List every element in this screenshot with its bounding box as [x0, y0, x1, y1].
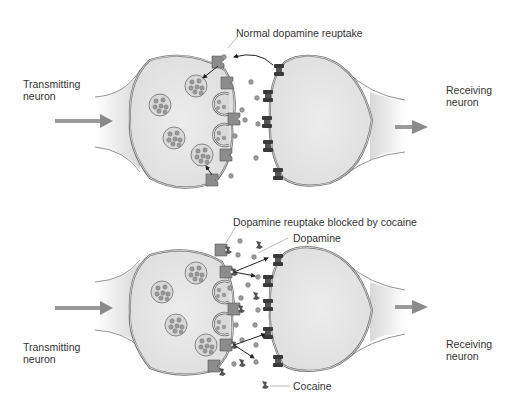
- receiving-terminal: [270, 247, 372, 371]
- vesicle: [191, 144, 213, 166]
- cocaine-label: Cocaine: [293, 380, 332, 392]
- cocaine-molecule: [253, 292, 260, 300]
- vesicle: [185, 262, 207, 284]
- vesicle: [151, 281, 173, 303]
- transmitting-terminal: [130, 250, 234, 374]
- vesicle: [163, 127, 185, 149]
- vesicle: [195, 334, 217, 356]
- blocked-transporter: [215, 244, 227, 256]
- output-arrow-icon: [412, 120, 428, 134]
- fusing-vesicle: [213, 281, 229, 303]
- blocked-reuptake-label: Dopamine reuptake blocked by cocaine: [233, 216, 417, 228]
- normal-reuptake-label: Normal dopamine reuptake: [236, 27, 363, 39]
- cocaine-molecule: [239, 359, 246, 367]
- receiving-neuron-label: Receiving neuron: [446, 84, 492, 108]
- dopamine-transporter: [228, 113, 240, 125]
- vesicle: [165, 314, 187, 336]
- cocaine-molecule: [225, 246, 232, 254]
- transmitting-neuron-label: Transmitting neuron: [23, 341, 80, 365]
- dopamine-label: Dopamine: [293, 232, 341, 244]
- fusing-vesicle: [213, 313, 229, 335]
- cocaine-legend-icon: [262, 381, 269, 389]
- vesicle: [185, 75, 207, 97]
- vesicle: [149, 94, 171, 116]
- fusing-vesicle: [213, 93, 229, 115]
- transmitting-terminal: [130, 56, 235, 188]
- cocaine-molecule: [238, 305, 245, 313]
- output-arrow-icon: [412, 300, 428, 314]
- panel-normal: [55, 36, 428, 188]
- transmitting-neuron-label: Transmitting neuron: [23, 78, 80, 102]
- blocked-transporter: [220, 266, 232, 278]
- cocaine-molecule: [256, 241, 263, 249]
- receiving-neuron-label: Receiving neuron: [446, 338, 492, 362]
- fusing-vesicle: [213, 124, 229, 146]
- panel-cocaine: [55, 226, 428, 389]
- blocked-transporter: [228, 303, 240, 315]
- receiving-terminal: [270, 56, 372, 186]
